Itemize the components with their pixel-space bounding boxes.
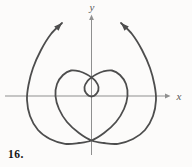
exercise-number: 16. [8, 148, 24, 160]
y-axis-arrowhead [89, 15, 94, 21]
x-axis-arrowhead [165, 94, 171, 99]
y-axis-label: y [89, 1, 95, 13]
curve-plot: y x [0, 0, 192, 167]
axes [5, 15, 171, 156]
x-axis-label: x [176, 90, 182, 102]
textbook-figure: y x 16. [0, 0, 192, 167]
